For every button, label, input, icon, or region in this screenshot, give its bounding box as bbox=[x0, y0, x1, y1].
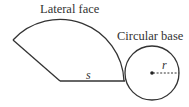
cone-net-diagram: Lateral face Circular base s r bbox=[0, 0, 189, 107]
circular-base bbox=[125, 46, 179, 100]
lateral-face-sector bbox=[13, 19, 125, 81]
radius-label: r bbox=[162, 58, 167, 72]
sector-arc bbox=[13, 19, 124, 81]
lateral-face-label: Lateral face bbox=[40, 2, 100, 16]
sector-left-edge bbox=[13, 40, 60, 81]
slant-height-label: s bbox=[86, 68, 91, 82]
circular-base-label: Circular base bbox=[117, 29, 184, 43]
